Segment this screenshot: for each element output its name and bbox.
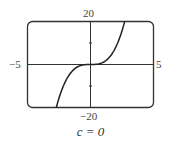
x-min-label: −5 xyxy=(9,59,21,70)
y-max-label: 20 xyxy=(83,8,94,19)
caption: c = 0 xyxy=(0,125,169,138)
x-max-label: 5 xyxy=(156,59,162,70)
y-min-label: −20 xyxy=(80,111,97,122)
